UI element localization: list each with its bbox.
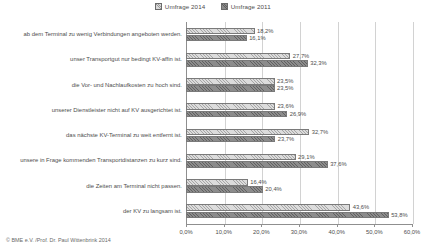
bar-2011 bbox=[186, 85, 275, 92]
x-axis-tick-label: 10,0% bbox=[215, 229, 231, 235]
x-axis-tick bbox=[374, 224, 375, 227]
bar-value-label: 43,6% bbox=[353, 204, 369, 211]
footer-credit: © BME e.V. /Prof. Dr. Paul Wittenbrink 2… bbox=[6, 237, 111, 243]
bar-value-label: 16,1% bbox=[249, 35, 265, 42]
x-axis-tick bbox=[224, 224, 225, 227]
bar-value-label: 23,6% bbox=[277, 103, 293, 110]
category-label: der KV zu langsam ist. bbox=[4, 208, 182, 215]
bar-value-label: 18,2% bbox=[257, 28, 273, 35]
bar-2011 bbox=[186, 111, 287, 118]
bar-group: der KV zu langsam ist.43,6%53,8% bbox=[0, 199, 426, 224]
legend-item-umfrage-2014: Umfrage 2014 bbox=[155, 3, 205, 10]
bar-2014 bbox=[186, 204, 350, 211]
bar-value-label: 23,7% bbox=[278, 136, 294, 143]
category-label: ab dem Terminal zu wenig Verbindungen an… bbox=[4, 31, 182, 38]
chart-container: Umfrage 2014 Umfrage 2011 0,0%10,0%20,0%… bbox=[0, 0, 426, 247]
category-label: unsere in Frage kommenden Transportdista… bbox=[4, 157, 182, 164]
bar-2014 bbox=[186, 154, 296, 161]
bar-value-label: 23,5% bbox=[277, 78, 293, 85]
bar-2014 bbox=[186, 78, 275, 85]
category-label: das nächste KV-Terminal zu weit entfernt… bbox=[4, 132, 182, 139]
x-axis-tick-label: 30,0% bbox=[291, 229, 307, 235]
bar-2011 bbox=[186, 136, 275, 143]
bar-2011 bbox=[186, 60, 308, 67]
legend-swatch-icon bbox=[155, 3, 162, 10]
legend-label: Umfrage 2011 bbox=[231, 3, 271, 10]
bar-group: unsere in Frage kommenden Transportdista… bbox=[0, 148, 426, 173]
bar-2014 bbox=[186, 53, 290, 60]
x-axis-tick bbox=[186, 224, 187, 227]
x-axis-tick-label: 20,0% bbox=[253, 229, 269, 235]
category-label: die Zeiten am Terminal nicht passen. bbox=[4, 183, 182, 190]
x-axis-tick-label: 60,0% bbox=[404, 229, 420, 235]
x-axis-tick bbox=[337, 224, 338, 227]
bar-2011 bbox=[186, 35, 247, 42]
legend-item-umfrage-2011: Umfrage 2011 bbox=[221, 3, 270, 10]
bar-group: die Zeiten am Terminal nicht passen.16,4… bbox=[0, 174, 426, 199]
bar-value-label: 37,6% bbox=[330, 161, 346, 168]
bar-2014 bbox=[186, 179, 248, 186]
legend-label: Umfrage 2014 bbox=[165, 3, 205, 10]
bar-value-label: 53,8% bbox=[391, 212, 407, 219]
bar-2014 bbox=[186, 28, 255, 35]
category-label: unser Transportgut nur bedingt KV-affin … bbox=[4, 56, 182, 63]
bar-value-label: 26,9% bbox=[290, 111, 306, 118]
bar-2011 bbox=[186, 212, 389, 219]
bar-value-label: 32,7% bbox=[312, 129, 328, 136]
bar-group: unser Transportgut nur bedingt KV-affin … bbox=[0, 47, 426, 72]
category-label: unserer Dienstleister nicht auf KV ausge… bbox=[4, 107, 182, 114]
category-label: die Vor- und Nachlaufkosten zu hoch sind… bbox=[4, 82, 182, 89]
bar-value-label: 20,4% bbox=[265, 186, 281, 193]
bar-value-label: 27,7% bbox=[293, 53, 309, 60]
bar-value-label: 32,3% bbox=[310, 60, 326, 67]
bar-value-label: 29,1% bbox=[298, 154, 314, 161]
bar-value-label: 16,4% bbox=[250, 179, 266, 186]
x-axis-tick bbox=[261, 224, 262, 227]
x-axis-tick bbox=[412, 224, 413, 227]
bar-group: das nächste KV-Terminal zu weit entfernt… bbox=[0, 123, 426, 148]
chart-legend: Umfrage 2014 Umfrage 2011 bbox=[0, 3, 426, 10]
bar-group: ab dem Terminal zu wenig Verbindungen an… bbox=[0, 22, 426, 47]
bar-2014 bbox=[186, 103, 275, 110]
bar-group: unserer Dienstleister nicht auf KV ausge… bbox=[0, 98, 426, 123]
x-axis-tick-label: 0,0% bbox=[179, 229, 192, 235]
bar-2011 bbox=[186, 186, 263, 193]
legend-swatch-icon bbox=[221, 3, 228, 10]
bar-2011 bbox=[186, 161, 328, 168]
bar-2014 bbox=[186, 129, 309, 136]
x-axis-tick-label: 40,0% bbox=[328, 229, 344, 235]
bar-value-label: 23,5% bbox=[277, 85, 293, 92]
x-axis-tick-label: 50,0% bbox=[366, 229, 382, 235]
bar-group: die Vor- und Nachlaufkosten zu hoch sind… bbox=[0, 73, 426, 98]
x-axis-tick bbox=[299, 224, 300, 227]
